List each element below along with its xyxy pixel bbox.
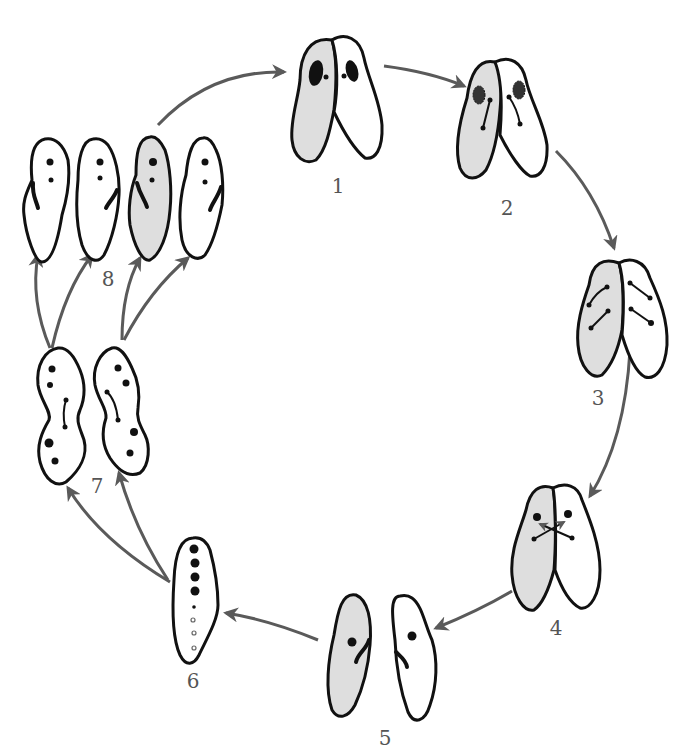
stage-label-8: 8 bbox=[102, 267, 115, 291]
stage-label-3: 3 bbox=[592, 386, 605, 410]
arrow-8-to-1 bbox=[158, 72, 284, 125]
macronucleus bbox=[97, 159, 104, 166]
nucleus bbox=[130, 428, 138, 436]
degenerating-nucleus bbox=[191, 618, 195, 622]
degenerating-nucleus bbox=[192, 631, 196, 635]
cell-right-unshaded bbox=[619, 260, 667, 377]
disintegrating-macronucleus-left bbox=[473, 86, 485, 104]
arrow-6-to-7-left bbox=[68, 488, 170, 582]
micronucleus-dot bbox=[105, 390, 110, 395]
nucleus bbox=[191, 559, 200, 568]
cell-unshaded bbox=[173, 538, 218, 663]
degenerating-nucleus bbox=[192, 646, 196, 650]
cell-left-shaded bbox=[458, 61, 502, 178]
cell-right-unshaded bbox=[495, 59, 547, 176]
dividing-cell-right bbox=[94, 348, 148, 475]
arrow-2-to-3 bbox=[556, 151, 614, 248]
cell-right-unshaded bbox=[393, 595, 436, 720]
stage-label-1: 1 bbox=[332, 174, 345, 198]
micronucleus-dot bbox=[606, 309, 611, 314]
micronucleus-dot bbox=[116, 418, 121, 423]
cell-left-shaded bbox=[292, 39, 336, 161]
stage-label-6: 6 bbox=[187, 669, 200, 693]
nucleus bbox=[191, 587, 200, 596]
daughter-cell-1 bbox=[24, 139, 69, 262]
stationary-micronucleus-right bbox=[564, 510, 572, 518]
nucleus bbox=[127, 450, 134, 457]
stage-3: 3 bbox=[578, 260, 667, 410]
stage-1: 1 bbox=[292, 37, 382, 198]
stage-label-5: 5 bbox=[379, 726, 392, 750]
micronucleus bbox=[150, 178, 155, 183]
stationary-micronucleus-left bbox=[533, 513, 541, 521]
micronucleus-dot bbox=[570, 536, 575, 541]
micronucleus-dot bbox=[532, 537, 537, 542]
stage-6: 6 bbox=[173, 538, 218, 693]
micronucleus-dot bbox=[481, 126, 486, 131]
cell-right-unshaded bbox=[332, 37, 382, 159]
micronucleus bbox=[98, 176, 103, 181]
nucleus bbox=[123, 380, 130, 387]
stage-label-2: 2 bbox=[501, 196, 514, 220]
fused-micronucleus bbox=[408, 632, 417, 641]
macronucleus bbox=[149, 158, 157, 166]
daughter-cell-3-shaded bbox=[129, 137, 171, 260]
micronucleus-dot bbox=[518, 122, 523, 127]
nucleus bbox=[52, 458, 59, 465]
fused-micronucleus bbox=[348, 638, 357, 647]
micronucleus-right bbox=[342, 74, 347, 79]
micronucleus-dot bbox=[63, 425, 68, 430]
stage-label-7: 7 bbox=[91, 474, 104, 498]
stage-8: 8 bbox=[24, 137, 223, 291]
micronucleus-dot bbox=[488, 98, 493, 103]
micronucleus-dot bbox=[605, 285, 610, 290]
arrow-7-to-8-a bbox=[36, 255, 50, 348]
micronucleus-dot bbox=[64, 398, 69, 403]
arrow-5-to-6 bbox=[226, 613, 318, 640]
arrow-7-to-8-b bbox=[52, 255, 92, 348]
arrow-4-to-5 bbox=[436, 591, 512, 628]
nucleus bbox=[49, 366, 56, 373]
micronucleus-dot bbox=[629, 307, 634, 312]
nucleus bbox=[190, 545, 199, 554]
micronucleus bbox=[49, 178, 54, 183]
nucleus bbox=[115, 365, 122, 372]
macronucleus bbox=[47, 159, 54, 166]
micronucleus-dot bbox=[589, 326, 594, 331]
stage-2: 2 bbox=[458, 59, 548, 220]
stage-5: 5 bbox=[328, 595, 436, 750]
degenerating-nucleus bbox=[192, 605, 196, 609]
micronucleus-dot bbox=[507, 95, 512, 100]
micronucleus-dot bbox=[648, 296, 653, 301]
disintegrating-macronucleus-right bbox=[513, 81, 525, 99]
micronucleus-dot bbox=[628, 281, 633, 286]
micronucleus-dot bbox=[587, 303, 592, 308]
micronucleus-dot bbox=[648, 320, 654, 326]
nucleus bbox=[45, 439, 54, 448]
micronucleus-left bbox=[324, 75, 329, 80]
dividing-cell-left bbox=[38, 348, 85, 484]
stage-4: 4 bbox=[512, 485, 600, 640]
macronucleus bbox=[202, 159, 209, 166]
arrow-1-to-2 bbox=[384, 66, 464, 86]
nucleus bbox=[191, 573, 200, 582]
nucleus bbox=[47, 382, 53, 388]
micronucleus bbox=[203, 180, 208, 185]
conjugation-cycle-diagram: 1 2 3 bbox=[0, 0, 692, 752]
stage-label-4: 4 bbox=[550, 616, 563, 640]
cell-left-shaded bbox=[328, 595, 371, 717]
cell-right-unshaded bbox=[553, 485, 600, 608]
cell-left-shaded bbox=[512, 486, 556, 610]
stage-7: 7 bbox=[38, 348, 149, 498]
